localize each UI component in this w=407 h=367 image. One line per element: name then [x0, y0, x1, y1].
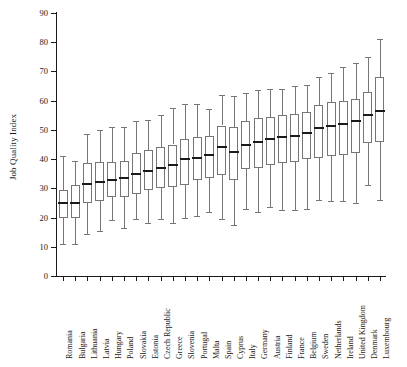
cap-lower — [377, 200, 383, 201]
median-line — [375, 110, 385, 112]
cap-upper — [377, 39, 383, 40]
whisker-upper — [380, 39, 381, 77]
whisker-lower — [380, 142, 381, 200]
box-plot-luxembourg — [0, 0, 407, 367]
box-plot-figure: Job Quality Index 0102030405060708090 Ro… — [0, 0, 407, 367]
